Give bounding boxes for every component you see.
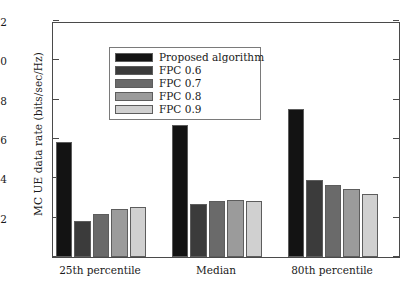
y-axis-label: MC UE data rate (bits/sec/Hz) <box>32 19 44 249</box>
bar-1-2 <box>209 201 226 257</box>
bar-2-1 <box>306 180 323 257</box>
plot-area: Proposed algorithmFPC 0.6FPC 0.7FPC 0.8F… <box>52 22 400 258</box>
y-tick-right-8 <box>393 99 399 100</box>
y-tick-label-12: 12 <box>0 17 7 28</box>
y-tick-label-6: 6 <box>0 135 7 146</box>
bar-0-0 <box>56 142 73 257</box>
x-tick-label-2: 80th percentile <box>262 264 402 276</box>
bar-1-0 <box>172 125 189 257</box>
legend-label-4: FPC 0.9 <box>159 104 201 115</box>
bar-1-3 <box>227 200 244 257</box>
bar-0-1 <box>74 221 91 257</box>
y-tick-right-4 <box>393 177 399 178</box>
y-tick-12 <box>53 20 59 21</box>
legend-label-2: FPC 0.7 <box>159 78 201 89</box>
bar-2-4 <box>362 194 379 257</box>
chart-legend: Proposed algorithmFPC 0.6FPC 0.7FPC 0.8F… <box>109 47 261 120</box>
bar-2-0 <box>288 109 305 257</box>
y-tick-label-8: 8 <box>0 96 7 107</box>
legend-item-2: FPC 0.7 <box>115 77 256 90</box>
legend-item-4: FPC 0.9 <box>115 103 256 116</box>
bar-2-3 <box>343 189 360 257</box>
y-tick-6 <box>53 138 59 139</box>
legend-label-1: FPC 0.6 <box>159 65 201 76</box>
legend-swatch-icon-3 <box>115 92 153 101</box>
y-tick-right-6 <box>393 138 399 139</box>
legend-swatch-icon-4 <box>115 105 153 114</box>
legend-label-0: Proposed algorithm <box>159 52 264 63</box>
bar-0-3 <box>111 209 128 257</box>
legend-swatch-icon-0 <box>115 53 153 62</box>
y-tick-10 <box>53 59 59 60</box>
legend-item-3: FPC 0.8 <box>115 90 256 103</box>
legend-swatch-icon-1 <box>115 66 153 75</box>
y-tick-right-2 <box>393 217 399 218</box>
y-tick-right-12 <box>393 20 399 21</box>
legend-swatch-icon-2 <box>115 79 153 88</box>
y-tick-label-2: 2 <box>0 214 7 225</box>
bar-0-2 <box>93 214 110 257</box>
legend-item-0: Proposed algorithm <box>115 51 256 64</box>
bar-1-1 <box>190 204 207 257</box>
y-tick-8 <box>53 99 59 100</box>
bar-chart-figure: MC UE data rate (bits/sec/Hz) Proposed a… <box>0 0 415 290</box>
bar-1-4 <box>246 201 263 257</box>
bar-2-2 <box>325 185 342 257</box>
legend-item-1: FPC 0.6 <box>115 64 256 77</box>
y-tick-label-4: 4 <box>0 174 7 185</box>
y-tick-right-0 <box>393 256 399 257</box>
legend-label-3: FPC 0.8 <box>159 91 201 102</box>
y-tick-right-10 <box>393 59 399 60</box>
bar-0-4 <box>130 207 147 257</box>
y-tick-label-10: 10 <box>0 56 7 67</box>
